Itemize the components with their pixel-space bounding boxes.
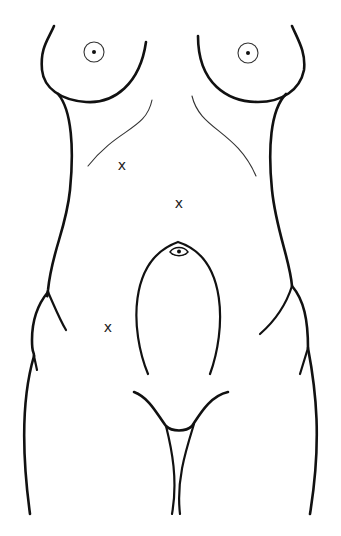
left-thigh-outline (24, 356, 34, 514)
right-hip-line (260, 286, 292, 334)
right-hip-outline (292, 286, 308, 348)
left-hip-line (48, 292, 66, 330)
port-mark-2: x (175, 195, 183, 211)
port-mark-1: x (118, 157, 126, 173)
left-hip-outline (32, 292, 48, 356)
right-thigh-outline (308, 348, 317, 514)
right-torso-outline (270, 94, 292, 286)
right-nipple (246, 51, 250, 55)
left-nipple (92, 50, 96, 54)
left-inner-thigh (166, 426, 174, 514)
left-breast (42, 26, 146, 102)
abdominal-oval (136, 242, 220, 374)
right-breast (198, 26, 304, 102)
right-inner-thigh (179, 424, 194, 514)
port-mark-3: x (104, 319, 112, 335)
right-thigh-branch (300, 348, 308, 374)
left-groin-line (134, 392, 228, 431)
umbilicus-icon (170, 248, 188, 256)
torso-diagram: x x x (0, 0, 341, 536)
left-torso-outline (47, 94, 72, 296)
right-costal-margin (192, 96, 256, 176)
